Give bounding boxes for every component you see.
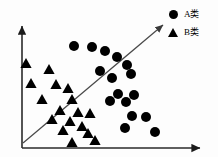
legend: A类 B类 [168,6,218,42]
data-point-circle [141,112,151,122]
data-point-circle [126,69,136,79]
data-point-triangle [72,107,83,117]
data-point-circle [120,123,130,133]
data-point-circle [105,96,115,106]
data-point-triangle [64,116,75,126]
data-point-circle [127,111,137,121]
data-point-triangle [54,105,65,115]
data-point-triangle [62,83,73,93]
data-point-circle [87,42,97,52]
legend-label-b: B类 [184,27,199,37]
data-point-triangle [43,64,54,74]
legend-item-a: A类 [168,6,218,22]
circle-marker-icon [168,8,181,21]
data-point-circle [107,73,117,83]
data-point-triangle [84,108,95,118]
series-b-markers [20,58,100,147]
data-point-circle [100,46,110,56]
data-point-circle [112,52,122,62]
data-point-triangle [57,125,68,135]
scatter-plot-figure: A类 B类 [0,0,218,157]
legend-item-b: B类 [168,24,218,40]
legend-label-a: A类 [184,9,200,19]
data-point-circle [150,127,160,137]
data-point-triangle [36,94,47,104]
data-point-circle [122,60,132,70]
data-point-circle [95,66,105,76]
data-point-circle [113,89,123,99]
data-point-triangle [25,78,36,88]
data-point-circle [121,97,131,107]
data-point-triangle [76,121,87,131]
data-point-circle [69,41,79,51]
triangle-marker-icon [168,26,181,39]
data-point-circle [129,90,139,100]
axes-group [22,26,200,148]
data-point-triangle [50,79,61,89]
data-point-triangle [66,137,77,147]
